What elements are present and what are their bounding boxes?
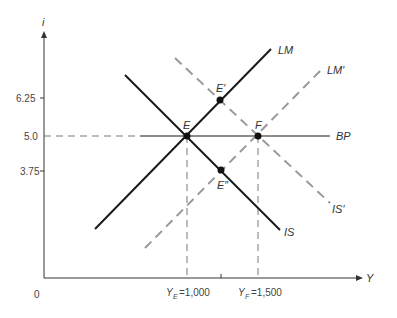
point-e-label: E xyxy=(183,119,191,131)
svg-text:=1,000: =1,000 xyxy=(179,287,210,298)
diagram-canvas: i Y 0 6.25 5.0 3.75 Y E =1,000 Y F =1,50… xyxy=(0,0,397,318)
point-e-prime xyxy=(217,97,224,104)
lm-prime-label: LM′ xyxy=(327,64,345,76)
is-lm-bp-diagram: i Y 0 6.25 5.0 3.75 Y E =1,000 Y F =1,50… xyxy=(0,0,397,318)
point-e-double-prime-label: E″ xyxy=(217,179,229,191)
is-label: IS xyxy=(284,226,295,238)
point-e-double-prime xyxy=(218,167,225,174)
x-tick-label-ye: Y E =1,000 xyxy=(166,287,210,300)
x-axis-label: Y xyxy=(366,272,374,284)
origin-label: 0 xyxy=(34,289,40,300)
svg-text:=1,500: =1,500 xyxy=(251,287,282,298)
point-e-prime-label: E′ xyxy=(216,82,226,94)
y-tick-label-5-0: 5.0 xyxy=(24,131,38,142)
point-f xyxy=(255,133,262,140)
svg-text:F: F xyxy=(245,293,250,300)
y-axis-label: i xyxy=(42,16,45,28)
y-tick-label-3-75: 3.75 xyxy=(20,166,40,177)
lm-curve xyxy=(95,49,271,229)
is-prime-label: IS′ xyxy=(332,203,345,215)
lm-prime-curve xyxy=(145,69,322,248)
bp-label: BP xyxy=(336,130,351,142)
point-e xyxy=(184,133,191,140)
is-prime-curve xyxy=(175,58,330,203)
lm-label: LM xyxy=(278,44,294,56)
svg-text:E: E xyxy=(173,293,178,300)
x-tick-label-yf: Y F =1,500 xyxy=(238,287,282,300)
y-tick-label-6-25: 6.25 xyxy=(16,93,36,104)
is-curve xyxy=(125,75,280,230)
